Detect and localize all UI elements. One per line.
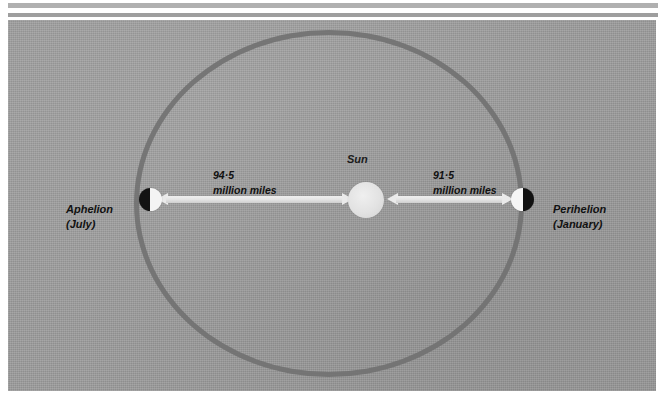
perihelion-distance-label: 91·5 million miles — [433, 168, 497, 198]
perihelion-distance-unit: million miles — [433, 183, 497, 198]
aphelion-name: Aphelion — [66, 202, 113, 217]
perihelion-distance-value: 91·5 — [433, 168, 497, 183]
earth-at-aphelion-icon — [139, 188, 162, 211]
aphelion-distance-value: 94·5 — [213, 168, 277, 183]
header-rule-top — [8, 3, 658, 8]
orbit-diagram-panel: Sun Aphelion (July) Perihelion (January)… — [8, 20, 656, 391]
aphelion-month: (July) — [66, 217, 113, 232]
header-rule-second — [8, 13, 658, 17]
perihelion-label: Perihelion (January) — [553, 202, 606, 232]
diagram-stage: Sun Aphelion (July) Perihelion (January)… — [8, 20, 656, 391]
sun-icon — [348, 182, 384, 218]
aphelion-label: Aphelion (July) — [66, 202, 113, 232]
perihelion-name: Perihelion — [553, 202, 606, 217]
aphelion-distance-unit: million miles — [213, 183, 277, 198]
perihelion-month: (January) — [553, 217, 606, 232]
aphelion-distance-label: 94·5 million miles — [213, 168, 277, 198]
earth-at-perihelion-icon — [511, 188, 534, 211]
sun-label: Sun — [347, 153, 368, 165]
